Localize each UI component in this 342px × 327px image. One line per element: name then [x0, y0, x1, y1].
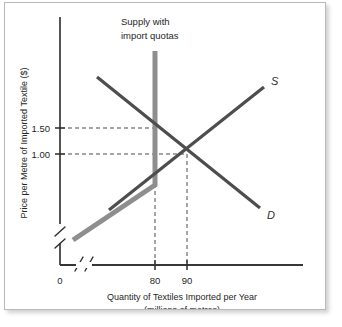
y-axis-title: Price per Metre of Imported Textile ($): [19, 68, 29, 219]
supply-demand-chart: 1.50 1.00 0 80 90 S D Supply with import…: [5, 3, 325, 309]
x-tick-label-90: 90: [182, 275, 193, 286]
quota-annotation-line2: import quotas: [121, 30, 179, 41]
demand-curve: [97, 77, 260, 208]
x-tick-label-0: 0: [57, 275, 62, 286]
figure-frame: 1.50 1.00 0 80 90 S D Supply with import…: [4, 2, 326, 310]
supply-curve-label: S: [271, 75, 279, 87]
y-tick-label-100: 1.00: [32, 149, 51, 160]
demand-curve-label: D: [267, 209, 275, 221]
x-axis-title: Quantity of Textiles Imported per Year: [107, 292, 257, 302]
x-axis-subtitle: (millions of metres): [144, 305, 220, 309]
y-tick-label-150: 1.50: [32, 123, 51, 134]
x-tick-label-80: 80: [150, 275, 161, 286]
quota-supply-curve: [73, 51, 155, 240]
quota-annotation-line1: Supply with: [121, 16, 170, 27]
